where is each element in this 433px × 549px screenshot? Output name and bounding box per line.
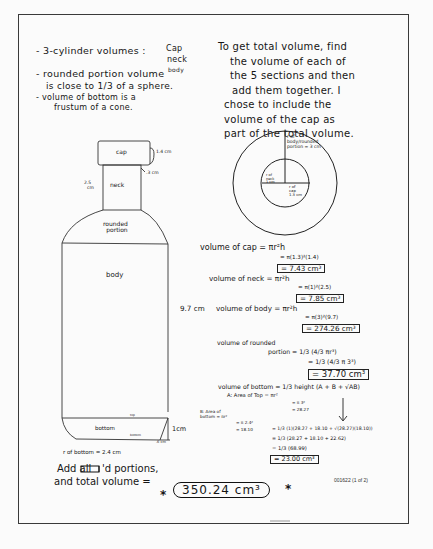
total-volume: 350.24 cm³ [173,482,270,498]
bottom-radius-label: r of bottom = 2.4 cm [63,450,121,456]
cap-result: = 7.43 cm³ [277,264,325,273]
neck-height-label: 2.5 cm [84,180,94,190]
bottom-formula: volume of bottom = 1/3 height (A + B + √… [218,384,360,390]
outer-radius-label: r of body/rounded portion = 3 cm [287,134,321,149]
inner-right-label: r of cap 1.3 cm [289,185,302,197]
area-bottom-step1: = π 2.4² [236,421,253,425]
bottom-step1: = 1/3 (1)(28.27 + 18.10 + √(28.27)(18.10… [272,427,373,432]
cap-overhang-label: .3 cm [146,171,159,176]
cap-height-label: 1.4 cm [156,150,171,155]
down-arrow-icon [339,398,347,421]
inner-left-label: r of neck 1 cm [266,174,275,185]
area-top-label: A: Area of Top = πr² [227,393,278,398]
cap-label: cap [116,149,127,155]
bottom-step3: = 1/3 (68.99) [272,446,307,451]
area-bottom-value: = 18.10 [236,428,253,432]
body-substitution: = π(3)²(9.7) [305,315,338,321]
rounded-formula: portion = 1/3 (4/3 πr³) [268,349,337,355]
rounded-result: = 37.70 cm³ [308,369,369,380]
bottom-label: bottom [95,426,115,432]
neck-height-unit: cm [84,185,94,190]
area-bottom-label-2: bottom = πr² [200,415,227,420]
body-height-note: 9.7 cm [180,305,205,312]
rounded-label-2: portion [103,227,128,233]
bottom-height-label: 1cm [172,426,186,433]
bottom-top-mark: top [130,414,135,417]
circle-diagram [233,131,337,235]
area-top-step1: = π 3² [292,401,305,405]
outer-label-3: portion = 3 cm [287,144,321,149]
bottom-offset-label: .6 cm [156,441,166,445]
star-right: * [285,483,291,495]
body-label: body [106,272,123,279]
body-formula: volume of body = πr²h [216,305,297,312]
summary-line2: and total volume = [54,477,151,487]
bottom-step2: = 1/3 (28.27 + 18.10 + 22.62) [272,437,346,442]
cap-formula: volume of cap = πr²h [200,244,285,252]
bottom-bottom-mark: bottom [130,434,141,437]
neck-result: = 7.85 cm³ [296,294,344,303]
rounded-substitution: = 1/3 (4/3 π 3³) [308,359,356,365]
summary-line1a: Add all [57,464,91,474]
summary-line1b: 'd portions, [102,464,158,474]
cap-substitution: = π(1.3)²(1.4) [280,255,319,261]
inner-right-3: 1.3 cm [289,193,302,197]
document-id: 001622 (1 of 2) [334,478,368,483]
area-top-value: = 28.27 [292,408,309,412]
area-bottom-label: B: Area of bottom = πr² [200,410,227,419]
star-left: * [160,489,166,501]
body-result: = 274.26 cm³ [302,324,360,333]
bottom-result: = 23.00 cm³ [270,455,319,464]
rounded-formula-label: volume of rounded [217,340,276,346]
inner-left-3: 1 cm [266,181,275,185]
neck-label: neck [110,182,124,188]
neck-substitution: = π(1)²(2.5) [298,285,331,291]
neck-formula: volume of neck = πr²h [209,275,290,282]
rounded-label: rounded portion [103,221,128,233]
